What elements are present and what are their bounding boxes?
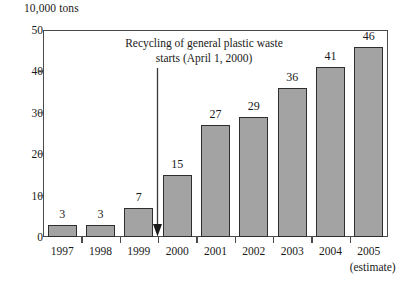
y-tick-label-50: 50	[5, 24, 43, 36]
bar-2000[interactable]	[163, 175, 192, 237]
x-tick-label-2002: 2002	[235, 245, 273, 257]
y-tick-label-0: 0	[5, 231, 43, 243]
x-sublabel-2005: (estimate)	[350, 261, 388, 273]
bar-value-label-2003: 36	[273, 70, 311, 85]
bar-value-label-1997: 3	[43, 207, 81, 222]
bar-value-label-1999: 7	[120, 190, 158, 205]
bar-value-label-2001: 27	[196, 107, 234, 122]
x-axis-labels: 199719981999200020012002200320042005(est…	[43, 245, 388, 287]
bar-2005[interactable]	[354, 47, 383, 237]
bar-2001[interactable]	[201, 125, 230, 237]
x-tick-mark-7	[311, 237, 312, 243]
bar-value-label-2005: 46	[350, 29, 388, 44]
y-axis: 01020304050	[0, 0, 43, 287]
x-tick-label-1999: 1999	[120, 245, 158, 257]
x-tick-label-2005: 2005	[350, 245, 388, 257]
x-tick-mark-1	[81, 237, 82, 243]
annotation-label: Recycling of general plastic waste start…	[88, 36, 320, 65]
bar-2002[interactable]	[239, 117, 268, 237]
bar-1999[interactable]	[124, 208, 153, 237]
bar-slot-2005[interactable]: 46	[350, 30, 388, 237]
x-tick-label-1997: 1997	[43, 245, 81, 257]
x-tick-label-1998: 1998	[81, 245, 119, 257]
x-tick-mark-4	[196, 237, 197, 243]
bar-2003[interactable]	[278, 88, 307, 237]
bar-1998[interactable]	[86, 225, 115, 237]
bar-value-label-1998: 3	[81, 207, 119, 222]
bar-chart: 10,000 tons 01020304050 337152729364146 …	[0, 0, 417, 287]
x-tick-mark-2	[120, 237, 121, 243]
bar-value-label-2000: 15	[158, 157, 196, 172]
x-tick-mark-6	[273, 237, 274, 243]
x-tick-label-2001: 2001	[196, 245, 234, 257]
x-tick-mark-5	[235, 237, 236, 243]
x-tick-label-2004: 2004	[311, 245, 349, 257]
x-tick-mark-8	[350, 237, 351, 243]
bar-value-label-2002: 29	[235, 99, 273, 114]
x-tick-label-2000: 2000	[158, 245, 196, 257]
x-tick-label-2003: 2003	[273, 245, 311, 257]
x-tick-mark-3	[158, 237, 159, 243]
bar-slot-1997[interactable]: 3	[43, 30, 81, 237]
bar-1997[interactable]	[48, 225, 77, 237]
bar-2004[interactable]	[316, 67, 345, 237]
